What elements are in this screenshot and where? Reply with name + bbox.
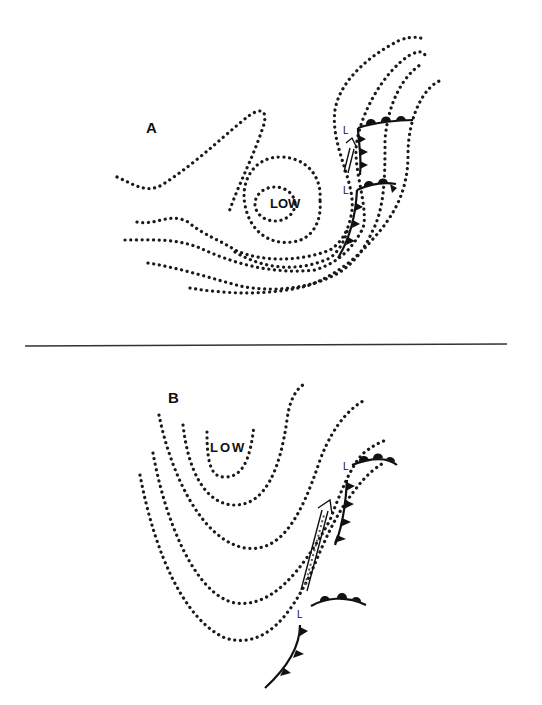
panel-b-label: B <box>168 389 179 406</box>
isobar <box>137 37 425 259</box>
jet-arrow <box>344 138 356 173</box>
cold-front-triangle <box>346 482 355 491</box>
jet-arrow <box>301 500 332 591</box>
panel-a: A <box>117 37 442 293</box>
panel-b: B LOW L L <box>140 383 397 688</box>
cold-front-triangle <box>358 135 366 143</box>
isobar <box>235 228 348 267</box>
weather-diagram: A <box>0 0 542 705</box>
divider <box>25 344 507 346</box>
isobar <box>159 400 365 548</box>
cold-front-triangle <box>390 184 397 193</box>
secondary-low-label: L <box>297 609 303 620</box>
cold-front-triangle <box>352 220 360 228</box>
cold-front-triangle <box>344 500 354 509</box>
cold-front-triangle <box>360 161 368 169</box>
isobar <box>125 52 425 271</box>
cold-front-triangle <box>355 203 363 211</box>
secondary-low-label: L <box>343 185 349 196</box>
low-label: LOW <box>210 440 246 455</box>
cold-front-triangle <box>360 148 368 156</box>
isobar <box>148 65 420 289</box>
cold-front-triangle <box>300 627 308 636</box>
cold-front-triangle <box>334 535 346 543</box>
low-label: LOW <box>270 196 301 211</box>
warm-front-semicircle <box>337 593 347 598</box>
panel-a-label: A <box>146 119 157 136</box>
isobar <box>117 111 265 215</box>
secondary-low-label: L <box>343 125 349 136</box>
secondary-low-label: L <box>343 461 349 472</box>
isobar <box>190 80 442 293</box>
warm-front-semicircle <box>396 116 406 121</box>
